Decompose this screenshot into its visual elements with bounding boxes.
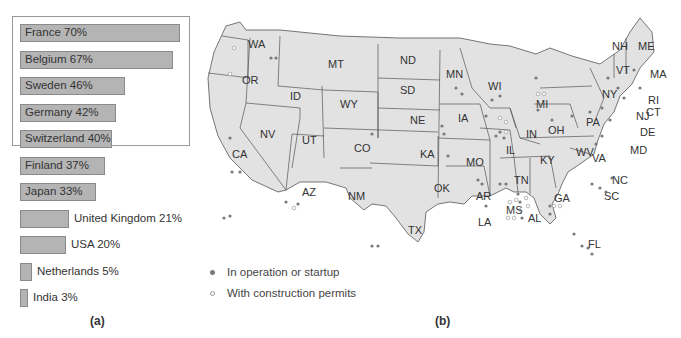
bar <box>20 236 66 254</box>
legend-label: With construction permits <box>227 287 356 299</box>
legend-item-operation: In operation or startup <box>210 263 356 281</box>
state-label-pa: PA <box>586 116 601 128</box>
state-label-ri: RI <box>648 94 659 106</box>
state-label-in: IN <box>526 128 537 140</box>
state-label-az: AZ <box>302 186 316 198</box>
state-label-ia: IA <box>458 112 469 124</box>
state-label-nj: NJ <box>636 110 649 122</box>
state-label-oh: OH <box>548 124 565 136</box>
bar-label: Germany 42% <box>25 106 99 118</box>
hollow-dot-icon <box>210 291 215 296</box>
bar-label: United Kingdom 21% <box>74 212 182 224</box>
state-label-al: AL <box>528 212 541 224</box>
state-label-wa: WA <box>248 38 266 50</box>
bar <box>20 210 69 228</box>
state-label-mo: MO <box>466 156 484 168</box>
state-label-ky: KY <box>540 154 555 166</box>
state-label-ny: NY <box>602 88 618 100</box>
panel-b-caption: (b) <box>435 314 450 328</box>
state-label-ut: UT <box>302 134 317 146</box>
bar-label: Sweden 46% <box>25 79 93 91</box>
state-label-md: MD <box>630 144 647 156</box>
state-label-nv: NV <box>260 128 276 140</box>
state-label-il: IL <box>506 144 515 156</box>
state-label-vt: VT <box>616 64 630 76</box>
state-label-ne: NE <box>410 114 425 126</box>
state-label-nc: NC <box>612 174 628 186</box>
state-label-ga: GA <box>554 192 571 204</box>
state-label-de: DE <box>640 126 655 138</box>
state-label-la: LA <box>478 216 492 228</box>
state-label-mi: MI <box>536 98 548 110</box>
state-label-va: VA <box>592 152 607 164</box>
bar-label: Finland 37% <box>25 159 89 171</box>
state-label-wi: WI <box>488 80 501 92</box>
bar-label: USA 20% <box>71 238 120 250</box>
state-label-wy: WY <box>340 98 358 110</box>
state-label-ma: MA <box>650 68 667 80</box>
state-label-nm: NM <box>348 190 365 202</box>
bar-label: Switzerland 40% <box>25 132 111 144</box>
bar <box>20 263 32 281</box>
legend-item-permits: With construction permits <box>210 284 356 302</box>
state-label-ar: AR <box>476 190 491 202</box>
state-label-ok: OK <box>434 182 451 194</box>
state-label-nh: NH <box>612 40 628 52</box>
state-label-mt: MT <box>328 58 344 70</box>
bar-label: India 3% <box>33 291 78 303</box>
state-label-fl: FL <box>588 238 601 250</box>
bar-label: France 70% <box>25 26 87 38</box>
us-map: WAOR IDMT NDSD WYNE NVUT COCA KAAZ NMOK … <box>200 8 670 258</box>
state-label-nd: ND <box>400 54 416 66</box>
bar-label: Belgium 67% <box>25 53 93 65</box>
state-label-mn: MN <box>446 68 463 80</box>
bar <box>20 289 28 307</box>
filled-dot-icon <box>210 270 215 275</box>
bar-label: Netherlands 5% <box>37 265 119 277</box>
bar-label: Japan 33% <box>25 185 83 197</box>
state-label-ca: CA <box>232 148 248 160</box>
panel-a-caption: (a) <box>90 314 105 328</box>
state-label-tn: TN <box>514 174 529 186</box>
map-legend: In operation or startup With constructio… <box>210 263 356 305</box>
state-label-id: ID <box>290 90 301 102</box>
state-label-co: CO <box>354 142 371 154</box>
legend-label: In operation or startup <box>227 266 340 278</box>
state-label-ka: KA <box>420 148 435 160</box>
state-label-or: OR <box>242 74 259 86</box>
state-label-me: ME <box>638 40 655 52</box>
state-label-sd: SD <box>400 84 415 96</box>
state-label-tx: TX <box>408 224 423 236</box>
